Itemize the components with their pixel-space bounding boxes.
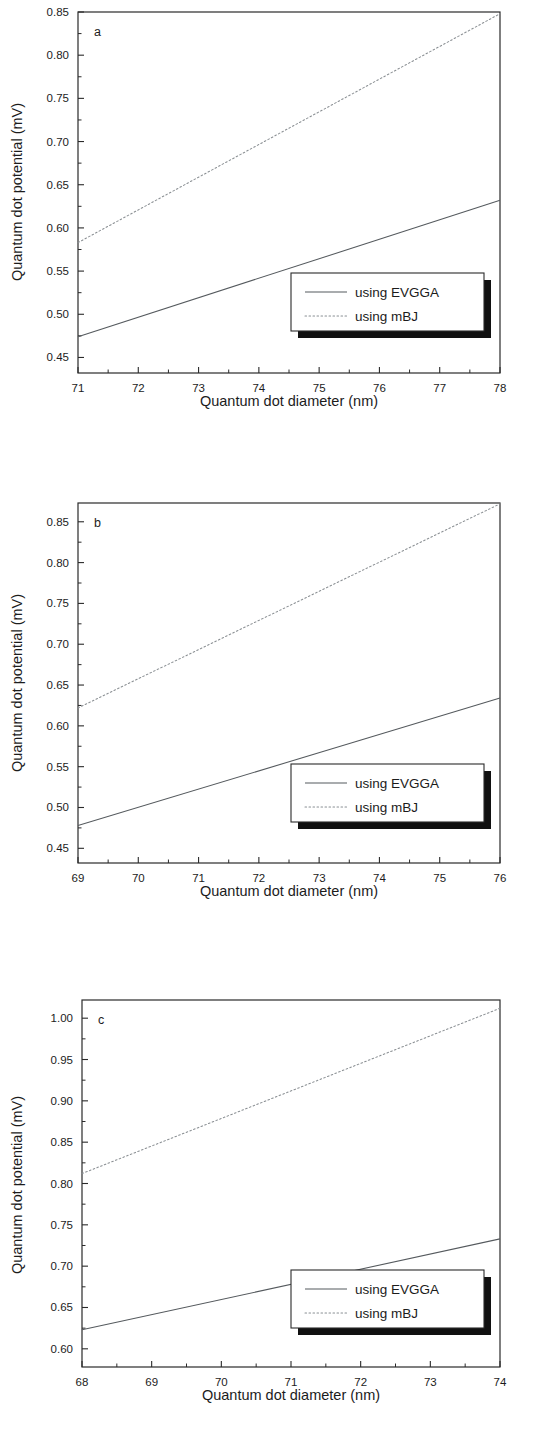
y-tick-label: 0.90: [51, 1095, 73, 1107]
x-tick-label: 74: [494, 1376, 507, 1388]
panel-label-c: c: [98, 1013, 104, 1027]
y-tick-label: 0.55: [47, 265, 69, 277]
y-tick-label: 0.60: [51, 1343, 73, 1355]
x-tick-label: 69: [72, 872, 85, 884]
y-tick-label: 0.70: [47, 136, 69, 148]
y-tick-label: 0.50: [47, 801, 69, 813]
y-tick-label: 0.85: [47, 6, 69, 18]
series-line-mbj: [78, 504, 500, 708]
chart-svg-c: 0.600.650.700.750.800.850.900.951.006869…: [0, 962, 538, 1410]
x-axis-title: Quantum dot diameter (nm): [202, 1387, 380, 1403]
y-tick-label: 0.80: [47, 49, 69, 61]
y-tick-label: 0.60: [47, 222, 69, 234]
y-tick-label: 0.60: [47, 720, 69, 732]
series-line-mbj: [82, 1008, 500, 1173]
legend-label-evgga: using EVGGA: [355, 285, 439, 300]
x-tick-label: 68: [76, 1376, 89, 1388]
panel-label-a: a: [94, 25, 101, 39]
chart-svg-a: 0.450.500.550.600.650.700.750.800.857172…: [0, 0, 538, 430]
y-tick-label: 0.85: [47, 516, 69, 528]
x-tick-label: 78: [494, 382, 507, 394]
x-tick-label: 70: [132, 872, 145, 884]
chart-panel-c: 0.600.650.700.750.800.850.900.951.006869…: [0, 962, 538, 1410]
series-line-mbj: [78, 14, 500, 243]
x-tick-label: 69: [145, 1376, 158, 1388]
chart-svg-b: 0.450.500.550.600.650.700.750.800.856970…: [0, 478, 538, 918]
y-tick-label: 0.45: [47, 351, 69, 363]
legend-label-mbj: using mBJ: [355, 309, 418, 324]
x-tick-label: 77: [433, 382, 446, 394]
y-tick-label: 0.65: [47, 179, 69, 191]
x-axis-title: Quantum dot diameter (nm): [200, 883, 378, 899]
y-tick-label: 0.65: [47, 679, 69, 691]
y-tick-label: 0.55: [47, 761, 69, 773]
y-axis-title: Quantum dot potential (mV): [9, 594, 25, 772]
chart-panel-b: 0.450.500.550.600.650.700.750.800.856970…: [0, 478, 538, 918]
y-tick-label: 1.00: [51, 1012, 73, 1024]
y-tick-label: 0.95: [51, 1054, 73, 1066]
y-tick-label: 0.80: [47, 557, 69, 569]
x-tick-label: 76: [494, 872, 507, 884]
legend-label-evgga: using EVGGA: [355, 1282, 439, 1297]
y-tick-label: 0.70: [51, 1260, 73, 1272]
legend-label-mbj: using mBJ: [355, 800, 418, 815]
chart-panel-a: 0.450.500.550.600.650.700.750.800.857172…: [0, 0, 538, 430]
panel-label-b: b: [94, 516, 101, 530]
y-tick-label: 0.75: [47, 92, 69, 104]
y-tick-label: 0.65: [51, 1301, 73, 1313]
y-tick-label: 0.85: [51, 1136, 73, 1148]
y-axis-title: Quantum dot potential (mV): [9, 1096, 25, 1274]
legend-label-evgga: using EVGGA: [355, 776, 439, 791]
x-tick-label: 73: [424, 1376, 437, 1388]
y-tick-label: 0.75: [51, 1219, 73, 1231]
figure-quantum-dot-potential: 0.450.500.550.600.650.700.750.800.857172…: [0, 0, 538, 1430]
y-tick-label: 0.70: [47, 638, 69, 650]
x-axis-title: Quantum dot diameter (nm): [200, 393, 378, 409]
x-tick-label: 71: [72, 382, 85, 394]
y-tick-label: 0.80: [51, 1178, 73, 1190]
legend-label-mbj: using mBJ: [355, 1306, 418, 1321]
x-tick-label: 72: [132, 382, 145, 394]
y-tick-label: 0.45: [47, 842, 69, 854]
y-axis-title: Quantum dot potential (mV): [9, 103, 25, 281]
y-tick-label: 0.50: [47, 308, 69, 320]
y-tick-label: 0.75: [47, 597, 69, 609]
x-tick-label: 75: [433, 872, 446, 884]
